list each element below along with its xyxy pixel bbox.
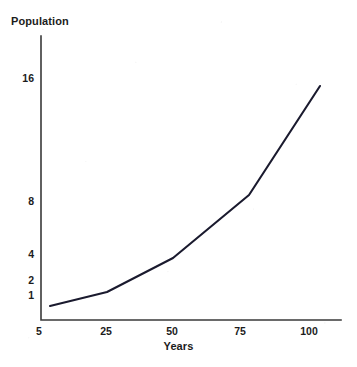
population-line-series [50,86,320,306]
y-tick-2: 2 [6,275,34,286]
x-tick-5: 5 [19,325,59,337]
x-tick-75: 75 [220,325,260,337]
x-axis-title: Years [0,340,357,352]
axis-lines [41,36,341,320]
plot-area [0,0,357,367]
population-growth-chart: Population 16 8 4 2 1 5 25 50 75 100 Yea… [0,0,357,367]
y-tick-16: 16 [6,73,34,84]
y-tick-1: 1 [6,290,34,301]
x-tick-25: 25 [86,325,126,337]
y-tick-8: 8 [6,196,34,207]
y-axis-tick-labels: 16 8 4 2 1 [0,0,34,367]
x-tick-100: 100 [289,325,329,337]
y-tick-4: 4 [6,249,34,260]
x-tick-50: 50 [152,325,192,337]
